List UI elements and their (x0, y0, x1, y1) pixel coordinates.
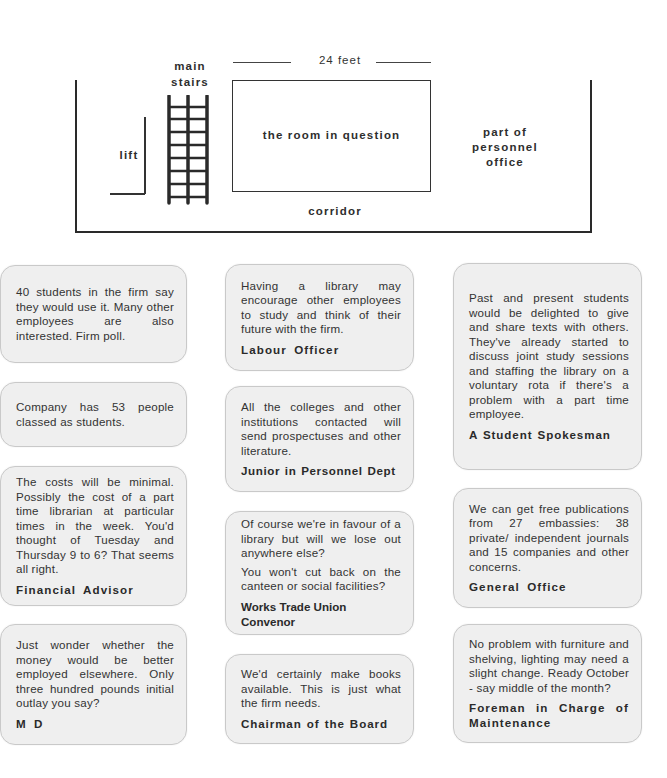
card-speaker: Chairman of the Board (241, 716, 401, 731)
card-general-office: We can get free publications from 27 emb… (453, 488, 642, 608)
bottom-wall (75, 231, 592, 233)
card-text: We can get free publications from 27 emb… (469, 502, 629, 575)
card-chairman: We'd certainly make books available. Thi… (225, 654, 414, 744)
personnel-office-line1: part of (460, 125, 550, 140)
main-stairs-label-line1: main (160, 58, 220, 74)
card-labour-officer: Having a library may encourage other emp… (225, 264, 414, 371)
card-speaker: Labour Officer (241, 342, 401, 357)
card-foreman: No problem with furniture and shelving, … (453, 624, 642, 743)
card-speaker: Junior in Personnel Dept (241, 463, 401, 478)
card-speaker: General Office (469, 579, 629, 594)
left-wall (75, 80, 77, 232)
card-speaker: Foreman in Charge of Maintenance (469, 700, 629, 730)
card-text: Company has 53 people classed as student… (16, 400, 174, 429)
dimension-line-right (376, 62, 431, 63)
card-trade-union: Of course we're in favour of a library b… (225, 511, 414, 635)
card-speaker: M D (16, 716, 174, 731)
card-text: You won't cut back on the canteen or soc… (241, 565, 401, 594)
floor-plan: 24 feet main stairs lift the room in que… (0, 0, 667, 245)
lift-wall-horizontal (110, 193, 145, 195)
dimension-label: 24 feet (300, 54, 380, 66)
card-text: Past and present students would be delig… (469, 291, 629, 422)
card-text: Just wonder whether the money would be b… (16, 638, 174, 711)
room-label: the room in question (232, 127, 431, 143)
card-md: Just wonder whether the money would be b… (0, 624, 187, 745)
card-firm-poll: 40 students in the firm say they would u… (0, 265, 187, 363)
card-text: The costs will be minimal. Possibly the … (16, 475, 174, 577)
lift-label: lift (112, 147, 146, 163)
personnel-office-label: part of personnel office (460, 125, 550, 170)
main-stairs-label-line2: stairs (160, 74, 220, 90)
card-text: All the colleges and other institutions … (241, 400, 401, 458)
card-speaker: Works Trade Union Convenor (241, 599, 401, 629)
card-text: 40 students in the firm say they would u… (16, 285, 174, 343)
card-text: We'd certainly make books available. Thi… (241, 667, 401, 711)
card-student-count: Company has 53 people classed as student… (0, 382, 187, 447)
card-text: No problem with furniture and shelving, … (469, 637, 629, 695)
personnel-office-line2: personnel (460, 140, 550, 155)
corridor-label: corridor (290, 203, 380, 219)
dimension-line-left (233, 62, 291, 63)
card-junior-personnel: All the colleges and other institutions … (225, 386, 414, 492)
card-text: Of course we're in favour of a library b… (241, 517, 401, 561)
right-wall (590, 80, 592, 232)
main-stairs-label: main stairs (160, 58, 220, 90)
card-text: Having a library may encourage other emp… (241, 279, 401, 337)
card-financial-advisor: The costs will be minimal. Possibly the … (0, 466, 187, 606)
stairs-icon (165, 95, 215, 205)
card-student-spokesman: Past and present students would be delig… (453, 263, 642, 470)
personnel-office-line3: office (460, 155, 550, 170)
card-speaker: Financial Advisor (16, 582, 174, 597)
card-speaker: A Student Spokesman (469, 427, 629, 442)
